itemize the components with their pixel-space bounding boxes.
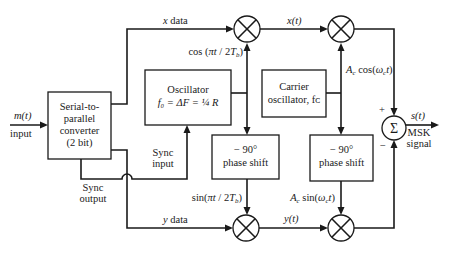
carrier-cos-label: Ac cos(ωct) (345, 64, 393, 77)
x-t-label: x(t) (286, 15, 302, 27)
cos-term-label: cos (πt / 2Tb) (188, 46, 243, 59)
phase-shift-right-degrees: − 90° (330, 144, 353, 155)
phase-shift-right-block: − 90° phase shift (310, 135, 373, 181)
x-t-line (260, 26, 328, 33)
multiplier-bottom-right-icon (328, 215, 354, 241)
phase-shift-left-block: − 90° phase shift (212, 135, 279, 179)
oscillator-block: Oscillator f₀ = ΔF = ¼ R (145, 70, 231, 125)
stp-line-3: converter (60, 125, 100, 136)
multiplier-bottom-left-icon (233, 215, 259, 241)
sigma-symbol: Σ (390, 121, 398, 136)
output-text-line-2: signal (406, 138, 431, 149)
multiplier-top-right-icon (328, 16, 354, 42)
x-data-label: x data (162, 15, 188, 26)
carrier-sin-label: Ac sin(ωct) (289, 192, 335, 205)
sum-minus-sign: − (380, 140, 386, 151)
stp-line-1: Serial-to- (60, 101, 100, 112)
oscillator-frequency: f₀ = ΔF = ¼ R (158, 97, 219, 108)
oscillator-feed-lines (244, 43, 251, 135)
carrier-title: Carrier (279, 81, 309, 92)
y-data-label: y data (162, 214, 188, 225)
phase-shift-left-text: phase shift (223, 157, 268, 168)
input-text-label: input (10, 128, 32, 139)
sync-output-label-2: output (80, 193, 107, 204)
serial-to-parallel-block: Serial-to- parallel converter (2 bit) (48, 92, 111, 159)
carrier-feed-lines (338, 43, 345, 135)
oscillator-title: Oscillator (167, 84, 209, 95)
summer-icon: Σ (382, 116, 406, 140)
y-t-label: y(t) (283, 213, 299, 225)
sync-output-label-1: Sync (83, 182, 104, 193)
phase-shift-right-text: phase shift (319, 157, 364, 168)
stp-line-4: (2 bit) (67, 137, 93, 149)
multiplier-top-left-icon (234, 16, 260, 42)
phase-shift-left-output (244, 179, 251, 215)
stp-line-2: parallel (64, 113, 96, 124)
carrier-subtitle: oscillator, fᴄ (268, 94, 320, 105)
sync-input-label-2: input (152, 158, 174, 169)
phase-shift-right-output (338, 181, 345, 215)
input-signal-label: m(t) (14, 110, 32, 122)
sum-plus-sign: + (379, 104, 385, 115)
msk-modulator-diagram: m(t) input Serial-to- parallel converter… (0, 0, 451, 253)
sin-term-label: sin(πt / 2Tb) (192, 192, 243, 205)
carrier-oscillator-block: Carrier oscillator, fᴄ (262, 70, 326, 117)
sync-input-label-1: Sync (153, 147, 174, 158)
phase-shift-left-degrees: − 90° (234, 144, 257, 155)
output-text-line-1: MSK (408, 127, 431, 138)
output-signal-label: s(t) (411, 110, 426, 122)
y-t-line (259, 225, 328, 232)
